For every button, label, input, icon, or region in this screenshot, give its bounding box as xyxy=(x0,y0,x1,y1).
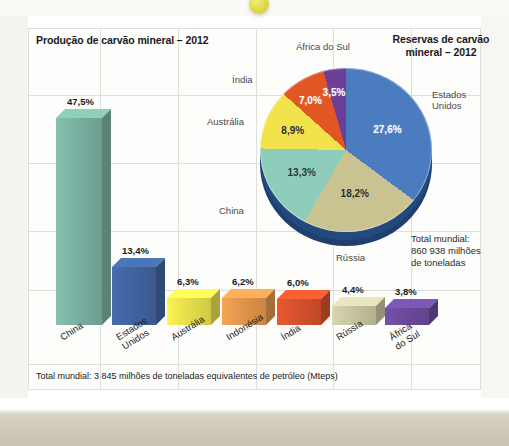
grid-line-horizontal xyxy=(28,28,481,29)
bar-face xyxy=(277,299,321,325)
pie-label-russia: Rússia xyxy=(336,252,365,263)
scanned-page: Produção de carvão mineral – 2012 47,5%C… xyxy=(0,0,509,446)
page-edge-left xyxy=(0,0,28,446)
pie-total-note: Total mundial: 860 938 milhões de tonela… xyxy=(411,233,481,269)
pie-total-line-2: 860 938 milhões xyxy=(411,245,481,257)
bar-value-label: 6,2% xyxy=(232,276,254,287)
pie-percent-label: 18,2% xyxy=(341,188,369,199)
page-edge-bottom xyxy=(0,398,509,446)
pie-total-line-3: de toneladas xyxy=(411,257,481,269)
bar-side xyxy=(102,109,111,325)
pie-percent-label: 13,3% xyxy=(288,167,316,178)
pie-label-australia: Austrália xyxy=(207,116,244,127)
pie-label-india: Índia xyxy=(232,74,253,85)
bar-side xyxy=(156,258,165,325)
pie-label-estados-unidos: Estados Unidos xyxy=(432,89,492,111)
bar-value-label: 6,3% xyxy=(177,276,199,287)
pie-label-estados-unidos-line1: Estados xyxy=(432,89,466,100)
bar-value-label: 6,0% xyxy=(287,277,309,288)
bar-china xyxy=(56,118,102,325)
pie-label-estados-unidos-line2: Unidos xyxy=(432,100,462,111)
grid-line-horizontal xyxy=(28,364,481,365)
bar-india xyxy=(277,299,321,325)
pie-label-china: China xyxy=(219,205,244,216)
bar-face xyxy=(112,267,156,325)
bar-estados-unidos xyxy=(112,267,156,325)
pie-chart-plot: 27,6%18,2%13,3%8,9%7,0%3,5% xyxy=(258,66,436,250)
bar-face xyxy=(56,118,102,325)
pie-slices xyxy=(260,68,432,232)
bar-chart-title: Produção de carvão mineral – 2012 xyxy=(36,34,208,46)
bar-value-label: 4,4% xyxy=(342,284,364,295)
pie-label-africa-do-sul: África do Sul xyxy=(296,41,350,52)
pie-total-line-1: Total mundial: xyxy=(411,233,481,245)
pie-percent-label: 27,6% xyxy=(373,124,401,135)
bar-value-label: 13,4% xyxy=(122,245,149,256)
pie-percent-label: 7,0% xyxy=(299,95,322,106)
bar-value-label: 47,5% xyxy=(67,96,94,107)
pie-percent-label: 3,5% xyxy=(323,87,346,98)
bar-chart-footnote: Total mundial: 3 845 milhões de tonelada… xyxy=(36,371,338,381)
pie-percent-label: 8,9% xyxy=(281,125,304,136)
bar-value-label: 3,8% xyxy=(395,286,417,297)
page-edge-right xyxy=(481,0,509,446)
pie-chart-title: Reservas de carvão mineral – 2012 xyxy=(378,33,504,59)
grid-line-horizontal xyxy=(28,389,481,390)
